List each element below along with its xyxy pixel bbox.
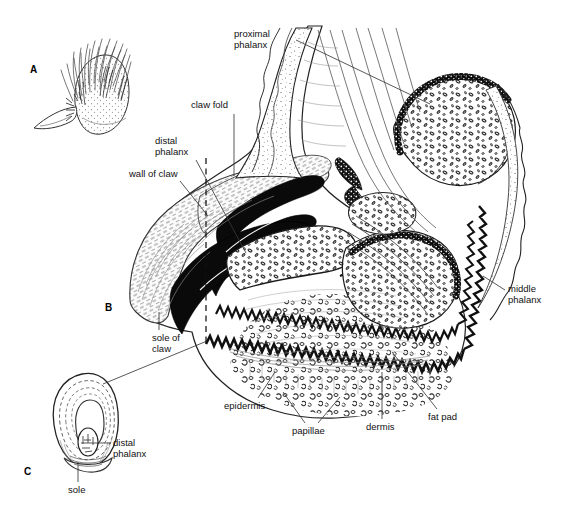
panel-label-b: B [105,302,112,313]
label-middle-phalanx: middle phalanx [508,283,541,305]
label-papillae: papillae [292,425,325,436]
label-dermis: dermis [366,421,395,432]
label-wall-of-claw: wall of claw [129,168,178,179]
label-sole-c: sole [68,484,85,495]
panel-label-a: A [30,64,37,75]
label-sole-of-claw: sole of claw [152,332,180,354]
label-proximal-phalanx: proximal phalanx [234,28,270,50]
claw-anatomy-figure [0,0,586,515]
label-claw-fold: claw fold [191,99,228,110]
label-distal-phalanx-c: distal phalanx [113,437,146,459]
label-epidermis: epidermis [224,400,265,411]
label-fat-pad: fat pad [428,411,457,422]
panel-label-c: C [24,466,31,477]
label-distal-phalanx-b: distal phalanx [155,135,188,157]
